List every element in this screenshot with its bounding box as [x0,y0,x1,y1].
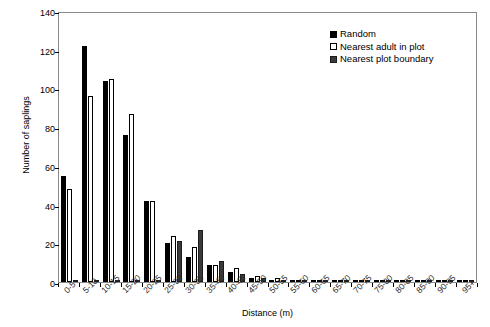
x-label-slot: 65-70 [330,286,351,326]
bar [144,201,149,282]
legend-swatch-icon [330,31,337,38]
x-label-slot: 50-55 [268,286,289,326]
x-label-slot: 60-65 [309,286,330,326]
bar [61,176,66,282]
legend-item: Random [330,28,433,41]
x-axis-labels: 0-55-1010-1515-2020-2525-3030-3535-4040-… [58,286,477,326]
legend-label: Nearest adult in plot [340,41,425,54]
x-label-slot: 85-90 [414,286,435,326]
x-label-slot: 95+ [456,286,477,326]
legend-label: Random [340,28,376,41]
x-label-slot: 55-60 [288,286,309,326]
legend-swatch-icon [330,43,337,50]
x-label-slot: 10-15 [100,286,121,326]
x-label-slot: 20-25 [142,286,163,326]
x-label-slot: 80-85 [393,286,414,326]
chart-container: Number of saplings 020406080100120140 0-… [0,0,490,327]
y-tick-label: 100 [40,86,55,95]
bar [103,81,108,282]
legend-label: Nearest plot boundary [340,53,433,66]
y-axis-title: Number of saplings [21,65,31,205]
legend-item: Nearest plot boundary [330,53,433,66]
x-label-slot: 45-50 [247,286,268,326]
bar-group [205,13,226,282]
bar [123,135,128,282]
x-label-slot: 30-35 [184,286,205,326]
y-tick-label: 140 [40,9,55,18]
bar [457,280,462,282]
bar [129,114,134,282]
bar-group [309,13,330,282]
x-label-slot: 40-45 [226,286,247,326]
legend-swatch-icon [330,56,337,63]
y-tick-label: 40 [45,202,55,211]
x-label-slot: 25-30 [163,286,184,326]
bar-group [226,13,247,282]
bar-group [247,13,268,282]
x-tick-mark [477,283,478,287]
bar-group [288,13,309,282]
legend-item: Nearest adult in plot [330,41,433,54]
x-label-slot: 90-95 [435,286,456,326]
bar-group [59,13,80,282]
bar-group [267,13,288,282]
bar [109,79,114,282]
x-axis-title: Distance (m) [58,308,477,318]
bar [67,189,72,282]
bar [165,243,170,282]
bar [186,257,191,282]
bar-group [184,13,205,282]
bar-group [80,13,101,282]
bar [88,96,93,282]
chart-legend: RandomNearest adult in plotNearest plot … [330,28,433,66]
bar-group [434,13,455,282]
x-label-slot: 35-40 [205,286,226,326]
x-label-slot: 70-75 [351,286,372,326]
x-label-slot: 15-20 [121,286,142,326]
bar-group [163,13,184,282]
y-tick-label: 80 [45,125,55,134]
y-tick-label: 60 [45,163,55,172]
bar-group [142,13,163,282]
bar-group [455,13,476,282]
x-label-slot: 5-10 [79,286,100,326]
y-tick-label: 120 [40,47,55,56]
bar-group [122,13,143,282]
bar-group [101,13,122,282]
x-label-slot: 75-80 [372,286,393,326]
y-tick-label: 20 [45,241,55,250]
bar [150,201,155,282]
bar [82,46,87,282]
x-label-slot: 0-5 [58,286,79,326]
